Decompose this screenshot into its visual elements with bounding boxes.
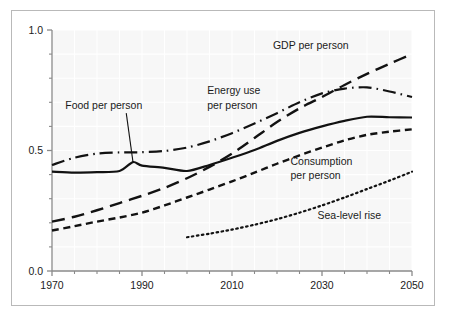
annotation-gdp-per-person: GDP per person: [273, 39, 349, 51]
x-tick-label: 2010: [220, 279, 244, 291]
annotation-sea-level-rise: Sea-level rise: [318, 209, 382, 221]
x-tick-label: 2050: [400, 279, 424, 291]
y-tick-label: 0.0: [28, 265, 43, 277]
annotation-energy-use-per-person-line2: per person: [207, 99, 257, 111]
annotation-energy-use-per-person: Energy use: [207, 84, 260, 96]
annotation-food-per-person: Food per person: [65, 99, 142, 111]
x-tick-label: 1970: [40, 279, 64, 291]
chart-canvas: 0.00.51.019701990201020302050GDP per per…: [0, 0, 450, 327]
y-tick-label: 1.0: [28, 24, 43, 36]
x-tick-label: 1990: [130, 279, 154, 291]
y-tick-label: 0.5: [28, 144, 43, 156]
figure: 0.00.51.019701990201020302050GDP per per…: [0, 0, 450, 327]
annotation-consumption-per-person-line2: per person: [291, 169, 341, 181]
x-tick-label: 2030: [310, 279, 334, 291]
annotation-consumption-per-person: Consumption: [291, 155, 353, 167]
